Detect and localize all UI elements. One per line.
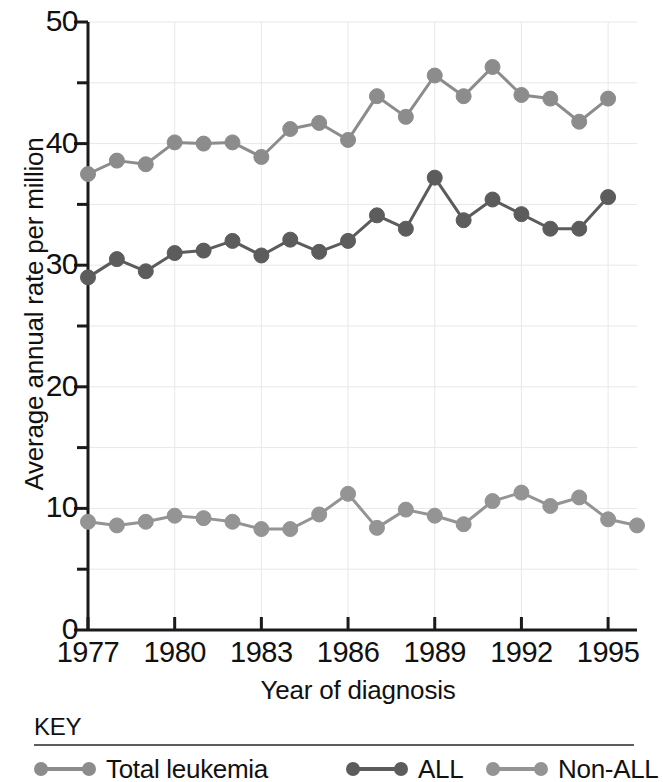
legend-item: Non-ALL: [486, 755, 659, 782]
data-point: [601, 512, 616, 527]
data-point: [514, 87, 529, 102]
legend-divider: [34, 744, 634, 746]
data-point: [427, 68, 442, 83]
data-point: [283, 522, 298, 537]
data-point: [456, 517, 471, 532]
chart-plot-area: 01020304050 Average annual rate per mill…: [0, 0, 646, 660]
data-point: [225, 514, 240, 529]
data-point: [167, 246, 182, 261]
data-point: [254, 522, 269, 537]
legend-item: ALL: [346, 755, 463, 782]
legend-item: Total leukemia: [34, 755, 268, 782]
data-point: [456, 213, 471, 228]
data-point: [485, 494, 500, 509]
data-point: [572, 490, 587, 505]
data-point: [601, 91, 616, 106]
data-point: [283, 122, 298, 137]
data-point: [543, 91, 558, 106]
legend-label: Non-ALL: [558, 755, 659, 782]
legend-swatch: [486, 760, 548, 778]
data-point: [543, 221, 558, 236]
data-point: [283, 232, 298, 247]
data-point: [485, 59, 500, 74]
data-point: [341, 486, 356, 501]
data-point: [572, 221, 587, 236]
data-point: [427, 508, 442, 523]
x-axis-tick-labels: 1977198019831986198919921995: [0, 636, 646, 676]
data-point: [138, 157, 153, 172]
data-series: [81, 59, 645, 536]
data-point: [514, 485, 529, 500]
data-point: [341, 233, 356, 248]
y-axis-title: Average annual rate per million: [20, 54, 48, 574]
legend-items: Total leukemiaALLNon-ALL: [34, 755, 634, 782]
data-point: [398, 502, 413, 517]
chart-legend: KEY Total leukemiaALLNon-ALL: [34, 714, 634, 782]
legend-swatch: [346, 760, 408, 778]
x-axis-title: Year of diagnosis: [88, 676, 628, 704]
data-point: [514, 207, 529, 222]
data-point: [254, 248, 269, 263]
data-point: [167, 135, 182, 150]
legend-swatch: [34, 760, 96, 778]
data-point: [543, 498, 558, 513]
data-point: [369, 208, 384, 223]
data-point: [109, 252, 124, 267]
x-axis-tick-label: 1995: [548, 636, 663, 668]
data-point: [427, 170, 442, 185]
data-point: [225, 135, 240, 150]
data-point: [81, 270, 96, 285]
legend-label: Total leukemia: [106, 755, 268, 782]
data-point: [398, 221, 413, 236]
data-point: [254, 149, 269, 164]
data-point: [398, 109, 413, 124]
series-non-all: [81, 485, 645, 536]
data-point: [196, 136, 211, 151]
data-point: [312, 507, 327, 522]
data-point: [167, 508, 182, 523]
data-point: [601, 190, 616, 205]
data-point: [485, 192, 500, 207]
data-point: [81, 167, 96, 182]
data-point: [81, 514, 96, 529]
data-point: [138, 514, 153, 529]
data-point: [138, 264, 153, 279]
data-point: [225, 233, 240, 248]
data-point: [456, 89, 471, 104]
data-point: [572, 114, 587, 129]
line-chart-svg: [0, 0, 646, 660]
data-point: [312, 244, 327, 259]
data-point: [196, 511, 211, 526]
data-point: [109, 518, 124, 533]
legend-title: KEY: [34, 714, 634, 743]
data-point: [109, 153, 124, 168]
data-point: [312, 115, 327, 130]
data-point: [341, 132, 356, 147]
data-point: [369, 520, 384, 535]
gridlines: [88, 22, 637, 630]
data-point: [369, 89, 384, 104]
data-point: [630, 518, 645, 533]
legend-label: ALL: [418, 755, 463, 782]
data-point: [196, 243, 211, 258]
y-axis-tick-label: 50: [20, 6, 78, 36]
